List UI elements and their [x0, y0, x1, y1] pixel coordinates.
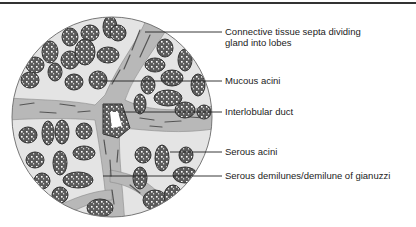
label-serous-acini: Serous acini [225, 146, 277, 157]
label-line: Connective tissue septa dividing [225, 26, 361, 37]
label-serous-demilunes: Serous demilunes/demilune of gianuzzi [225, 170, 390, 181]
label-interlobular-duct: Interlobular duct [225, 106, 293, 117]
label-line: gland into lobes [225, 37, 361, 48]
label-connective-tissue-septa: Connective tissue septa dividing gland i… [225, 26, 361, 48]
label-mucous-acini: Mucous acini [225, 75, 280, 86]
